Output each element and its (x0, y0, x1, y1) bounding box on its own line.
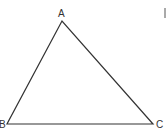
triangle-abc (7, 21, 153, 124)
vertex-label-b: B (0, 119, 6, 130)
triangle-diagram: A B C (0, 0, 167, 140)
vertex-label-a: A (58, 8, 65, 19)
vertex-label-c: C (156, 119, 163, 130)
